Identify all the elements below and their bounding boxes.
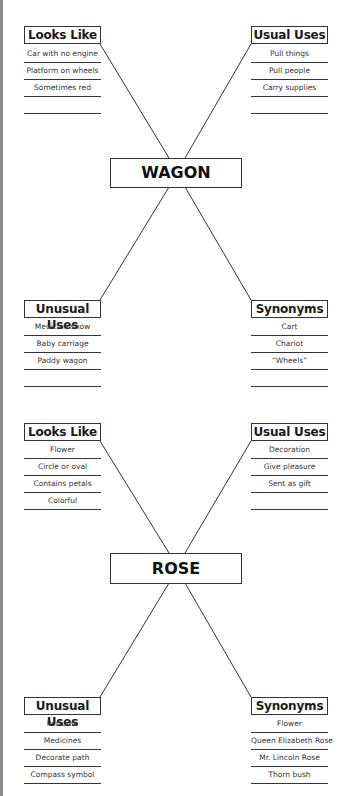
wagon-usual-uses-item: Carry supplies xyxy=(251,82,328,97)
wagon-unusual-uses-item xyxy=(24,372,101,387)
rose-looks-like-item: Flower xyxy=(24,444,101,459)
wagon-unusual-uses-item: Medicine show xyxy=(24,321,101,336)
rose-synonyms-item: Thorn bush xyxy=(251,769,328,784)
wagon-usual-uses-item: Pull things xyxy=(251,48,328,63)
rose-looks-like-item: Circle or oval xyxy=(24,461,101,476)
wagon-looks-like-item: Platform on wheels xyxy=(24,65,101,80)
wagon-synonyms-item: “Wheels” xyxy=(251,355,328,370)
rose-unusual-uses-item: Decorate path xyxy=(24,752,101,767)
wagon-unusual-uses-header: Unusual Uses xyxy=(24,300,101,318)
rose-usual-uses-item xyxy=(251,495,328,510)
wagon-looks-like-item: Sometimes red xyxy=(24,82,101,97)
wagon-synonyms-item: Chariot xyxy=(251,338,328,353)
wagon-center-box: WAGON xyxy=(110,158,242,188)
rose-unusual-uses-header: Unusual Uses xyxy=(24,697,101,715)
rose-unusual-uses-item: Perfume xyxy=(24,718,101,733)
wagon-unusual-uses-item: Baby carriage xyxy=(24,338,101,353)
rose-usual-uses-item: Give pleasure xyxy=(251,461,328,476)
connector-lines xyxy=(0,0,347,796)
rose-usual-uses-header: Usual Uses xyxy=(251,423,328,441)
wagon-synonyms-header: Synonyms xyxy=(251,300,328,318)
rose-usual-uses-item: Decoration xyxy=(251,444,328,459)
rose-unusual-uses-item: Compass symbol xyxy=(24,769,101,784)
wagon-looks-like-header: Looks Like xyxy=(24,26,101,44)
rose-looks-like-header: Looks Like xyxy=(24,423,101,441)
wagon-unusual-uses-item: Paddy wagon xyxy=(24,355,101,370)
rose-synonyms-item: Mr. Lincoln Rose xyxy=(251,752,328,767)
wagon-looks-like-item xyxy=(24,99,101,114)
wagon-usual-uses-header: Usual Uses xyxy=(251,26,328,44)
rose-synonyms-header: Synonyms xyxy=(251,697,328,715)
wagon-looks-like-item: Car with no engine xyxy=(24,48,101,63)
rose-usual-uses-item: Sent as gift xyxy=(251,478,328,493)
rose-unusual-uses-item: Medicines xyxy=(24,735,101,750)
wagon-usual-uses-item xyxy=(251,99,328,114)
wagon-synonyms-item: Cart xyxy=(251,321,328,336)
wagon-synonyms-item xyxy=(251,372,328,387)
rose-synonyms-item: Queen Elizabeth Rose xyxy=(251,735,328,750)
rose-synonyms-item: Flower xyxy=(251,718,328,733)
rose-looks-like-item: Contains petals xyxy=(24,478,101,493)
wagon-usual-uses-item: Pull people xyxy=(251,65,328,80)
rose-looks-like-item: Colorful xyxy=(24,495,101,510)
rose-center-box: ROSE xyxy=(110,553,242,584)
